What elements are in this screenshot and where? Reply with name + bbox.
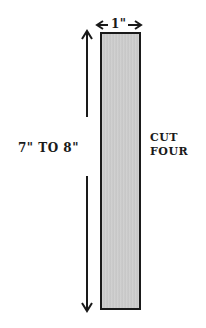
length-label: 7" TO 8"	[18, 141, 79, 155]
cut-instruction-line2: FOUR	[150, 145, 188, 158]
length-arrow	[82, 31, 92, 311]
cut-instruction-line1: CUT	[150, 131, 178, 144]
width-label: 1"	[111, 17, 127, 31]
board-piece	[100, 32, 141, 310]
